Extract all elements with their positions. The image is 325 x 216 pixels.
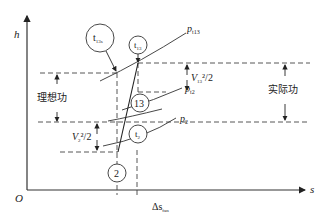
state-t13s: t13s	[86, 24, 116, 71]
y-axis-label: h	[14, 28, 20, 40]
svg-text:V13²/2: V13²/2	[191, 72, 213, 84]
svg-text:V2²/2: V2²/2	[72, 131, 91, 143]
ideal-work-annotation: 理想功	[37, 75, 67, 121]
isobar-p-t2	[122, 88, 182, 110]
actual-work-annotation: 实际功	[268, 65, 298, 120]
x-axis-label: s	[310, 183, 314, 195]
delta-s-fan-label: Δsfan	[152, 201, 169, 213]
v2-kinetic-annotation: V2²/2	[72, 124, 97, 150]
label-p-2: p2	[179, 113, 188, 125]
state-t2: t2	[129, 125, 147, 143]
label-p-t13: pt13	[186, 23, 200, 35]
ideal-work-label: 理想功	[37, 91, 67, 103]
h-s-diagram: h s O pt13 pt2 p2 t13s t13 13 t2 2	[0, 0, 325, 216]
svg-text:13: 13	[134, 98, 144, 109]
label-p-t2: pt2	[184, 83, 195, 95]
state-13: 13	[131, 94, 149, 112]
v13-kinetic-annotation: V13²/2	[187, 65, 213, 90]
actual-work-label: 实际功	[268, 83, 298, 95]
svg-text:2: 2	[114, 168, 119, 179]
state-2: 2	[108, 164, 126, 182]
origin-label: O	[15, 192, 23, 204]
